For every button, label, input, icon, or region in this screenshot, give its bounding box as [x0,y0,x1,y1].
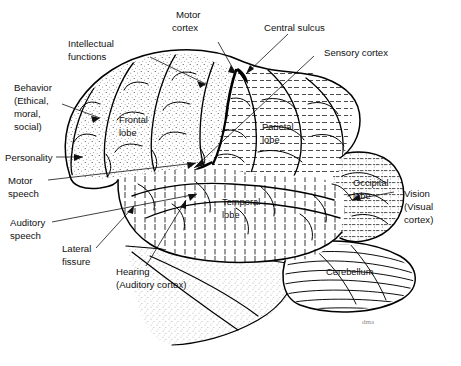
label-central-sulcus: Central sulcus [264,22,325,33]
label-lateral-fissure-line1: Lateral [62,243,91,254]
label-occipital-lobe-line2: lobe [353,191,371,201]
brain-diagram-svg: Intellectual functions Motor cortex Cent… [0,0,461,366]
label-motor-cortex-line2: cortex [172,22,198,33]
label-behavior-line4: social) [14,121,42,132]
label-intellectual-functions-line1: Intellectual [68,38,114,49]
label-cerebellum: Cerebellum [326,267,374,277]
label-vision-visual-cortex: Vision (Visual cortex) [404,188,433,225]
label-behavior-line1: Behavior [14,82,53,93]
artist-signature: dma [362,318,375,326]
label-parietal-lobe-line1: Parietal [262,122,294,132]
label-frontal-lobe-line2: lobe [119,128,137,138]
label-auditory-speech-line1: Auditory [10,217,45,228]
brain-diagram-figure: Intellectual functions Motor cortex Cent… [0,0,461,366]
label-sensory-cortex: Sensory cortex [324,47,388,58]
label-vision-line3: cortex) [404,214,433,225]
label-temporal-lobe-line2: lobe [222,210,240,220]
label-behavior-line3: moral, [14,108,41,119]
label-personality: Personality [5,152,53,163]
label-vision-line2: (Visual [404,201,433,212]
label-lateral-fissure-line2: fissure [62,256,90,267]
label-occipital-lobe-line1: Occipital [353,178,389,188]
label-motor-speech-line2: speech [8,188,39,199]
label-motor-speech-line1: Motor [8,175,33,186]
label-intellectual-functions-line2: functions [68,51,107,62]
label-hearing-line1: Hearing [116,266,150,277]
label-hearing-line2: (Auditory cortex) [116,279,186,290]
label-temporal-lobe-line1: Temporal [222,197,260,207]
label-motor-cortex-line1: Motor [176,9,201,20]
label-frontal-lobe-line1: Frontal [119,115,148,125]
label-vision-line1: Vision [404,188,430,199]
label-behavior-line2: (Ethical, [14,95,49,106]
label-auditory-speech-line2: speech [10,230,41,241]
label-parietal-lobe-line2: lobe [262,135,280,145]
